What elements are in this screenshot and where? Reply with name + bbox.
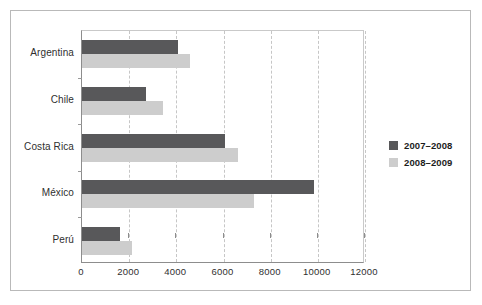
x-axis-tick-10000 bbox=[317, 233, 318, 238]
chart-legend: 2007–20082008–2009 bbox=[389, 138, 452, 172]
x-axis-label-10000: 10000 bbox=[303, 266, 330, 277]
x-axis-tick-6000 bbox=[223, 233, 224, 238]
gridline-8000 bbox=[271, 31, 272, 262]
plot-area bbox=[81, 30, 364, 263]
y-axis-tick-2 bbox=[78, 124, 82, 125]
bar-argentina-2007–2008 bbox=[82, 40, 178, 54]
x-axis-label-12000: 12000 bbox=[350, 266, 377, 277]
bar-méxico-2008–2009 bbox=[82, 194, 254, 208]
bar-argentina-2008–2009 bbox=[82, 54, 190, 68]
bar-chile-2008–2009 bbox=[82, 101, 163, 115]
category-label-argentina: Argentina bbox=[30, 47, 74, 58]
chart-figure: ArgentinaChileCosta RicaMéxicoPerú 02000… bbox=[0, 0, 482, 305]
legend-swatch-icon-2007–2008 bbox=[389, 141, 398, 150]
legend-label: 2007–2008 bbox=[404, 140, 452, 151]
category-label-chile: Chile bbox=[51, 94, 74, 105]
x-axis-label-0: 0 bbox=[78, 266, 83, 277]
x-axis-label-8000: 8000 bbox=[259, 266, 281, 277]
bar-perú-2008–2009 bbox=[82, 241, 132, 255]
y-axis-tick-1 bbox=[78, 78, 82, 79]
category-label-méxico: México bbox=[42, 187, 74, 198]
gridline-10000 bbox=[318, 31, 319, 262]
x-axis-tick-4000 bbox=[175, 233, 176, 238]
legend-item-2008–2009: 2008–2009 bbox=[389, 155, 452, 170]
legend-label: 2008–2009 bbox=[404, 157, 452, 168]
x-axis-label-4000: 4000 bbox=[164, 266, 186, 277]
x-axis-tick-12000 bbox=[364, 233, 365, 238]
x-axis-tick-0 bbox=[81, 233, 82, 238]
y-axis-tick-3 bbox=[78, 171, 82, 172]
y-axis-category-labels: ArgentinaChileCosta RicaMéxicoPerú bbox=[0, 30, 74, 263]
x-axis-label-6000: 6000 bbox=[212, 266, 234, 277]
category-label-costa-rica: Costa Rica bbox=[24, 141, 74, 152]
bar-costa-rica-2007–2008 bbox=[82, 134, 225, 148]
gridline-12000 bbox=[365, 31, 366, 262]
legend-item-2007–2008: 2007–2008 bbox=[389, 138, 452, 153]
category-label-perú: Perú bbox=[52, 234, 74, 245]
x-axis-label-2000: 2000 bbox=[117, 266, 139, 277]
legend-swatch-icon-2008–2009 bbox=[389, 158, 398, 167]
bar-perú-2007–2008 bbox=[82, 227, 120, 241]
bar-costa-rica-2008–2009 bbox=[82, 148, 238, 162]
x-axis-tick-8000 bbox=[270, 233, 271, 238]
y-axis-tick-4 bbox=[78, 217, 82, 218]
x-axis-tick-2000 bbox=[128, 233, 129, 238]
bar-méxico-2007–2008 bbox=[82, 180, 314, 194]
bar-chile-2007–2008 bbox=[82, 87, 146, 101]
